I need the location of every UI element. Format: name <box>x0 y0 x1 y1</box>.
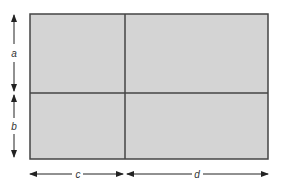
dimension-c: c <box>30 169 123 180</box>
dimension-a: a <box>11 15 17 91</box>
label-b: b <box>11 121 17 132</box>
dimension-d: d <box>127 169 268 180</box>
dimension-b: b <box>11 95 17 157</box>
label-c: c <box>76 169 81 180</box>
label-a: a <box>11 48 17 59</box>
label-d: d <box>194 169 200 180</box>
outer-rectangle <box>30 14 268 159</box>
area-diagram: a b c d <box>0 0 281 189</box>
